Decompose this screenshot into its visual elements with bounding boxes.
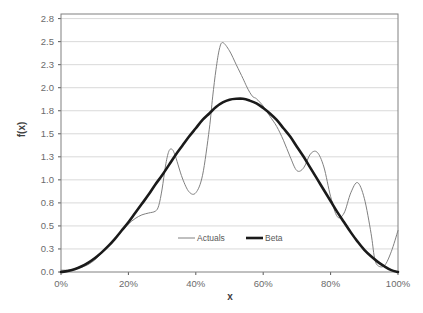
chart-container: f(x) x 0.00.30.50.81.01.31.51.82.02.32.5… [0,0,423,313]
legend-label-actuals: Actuals [197,233,225,243]
series-line-beta [61,99,398,272]
legend-label-beta: Beta [265,233,283,243]
plot-frame [61,14,398,272]
plot-area: ActualsBeta [0,0,423,313]
chart-legend: ActualsBeta [178,233,283,243]
gridlines [58,19,398,275]
